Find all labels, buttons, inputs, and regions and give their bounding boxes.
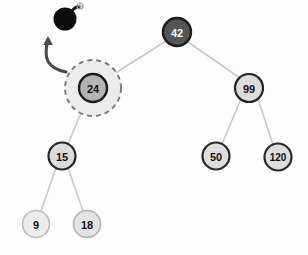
node-120[interactable]: 120 <box>265 144 292 171</box>
node-99[interactable]: 99 <box>235 74 263 102</box>
node-label-42: 42 <box>171 27 183 39</box>
edge-42-99 <box>188 42 240 78</box>
edge-15-18 <box>68 168 83 211</box>
node-42[interactable]: 42 <box>163 18 191 46</box>
edge-99-50 <box>222 99 241 144</box>
edge-15-9 <box>41 168 56 211</box>
tree-diagram-canvas: 42 24 99 15 50 120 9 18 <box>0 0 308 255</box>
node-label-50: 50 <box>210 151 222 163</box>
node-50[interactable]: 50 <box>203 143 230 170</box>
tree-svg: 42 24 99 15 50 120 9 18 <box>0 0 308 255</box>
node-label-9: 9 <box>33 219 39 231</box>
node-label-15: 15 <box>56 151 68 163</box>
node-24[interactable]: 24 <box>79 74 107 102</box>
edge-99-120 <box>258 99 273 145</box>
bomb-icon <box>54 3 84 31</box>
node-label-120: 120 <box>270 152 287 163</box>
node-label-99: 99 <box>243 83 255 95</box>
node-18[interactable]: 18 <box>74 211 101 238</box>
node-15[interactable]: 15 <box>49 143 76 170</box>
node-9[interactable]: 9 <box>23 211 50 238</box>
delete-arrow <box>43 36 66 72</box>
node-label-24: 24 <box>87 83 100 95</box>
node-label-18: 18 <box>81 219 93 231</box>
